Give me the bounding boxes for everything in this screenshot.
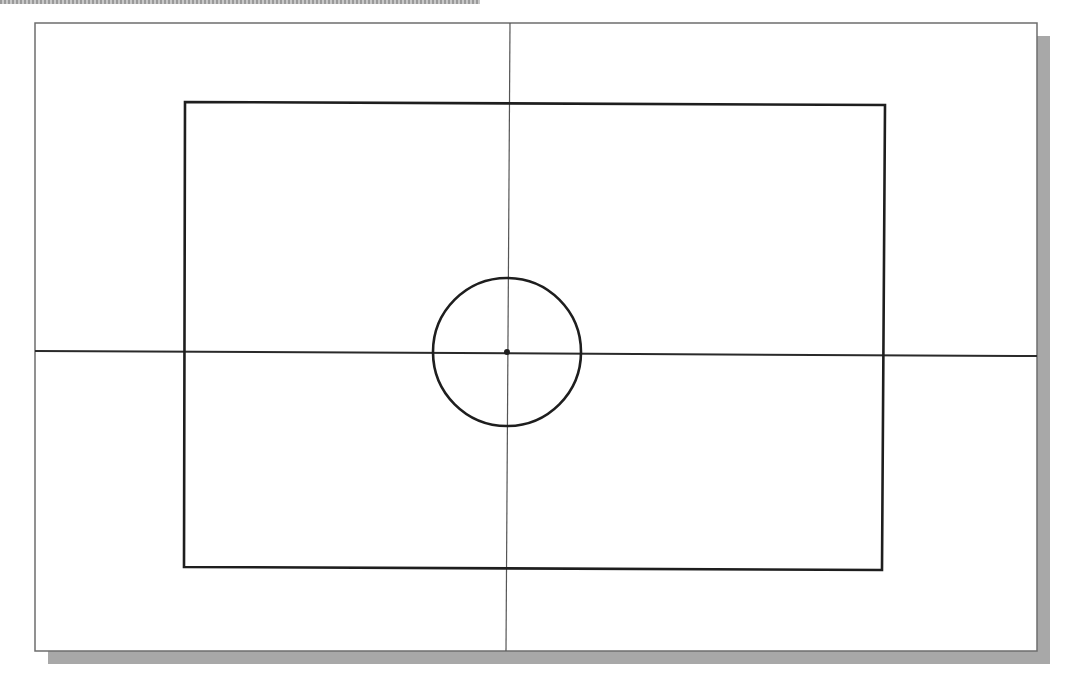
drawing-svg (0, 0, 1065, 676)
diagram-canvas (0, 0, 1065, 676)
circle-center-point (504, 349, 510, 355)
